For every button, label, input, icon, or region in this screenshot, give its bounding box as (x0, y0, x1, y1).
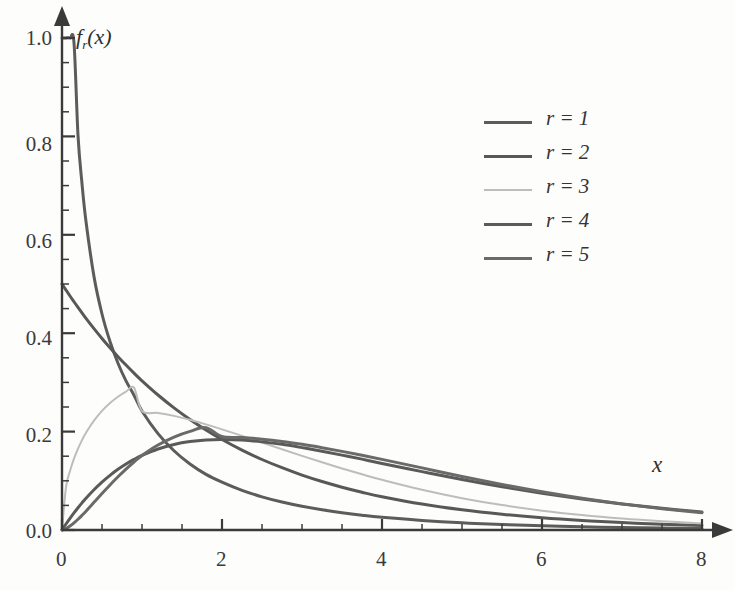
x-tick-label-0: 0 (56, 547, 67, 572)
y-tick-label-0: 0.0 (4, 519, 52, 544)
curve-r5 (62, 427, 702, 530)
legend-swatch-r1 (484, 121, 532, 124)
legend-label-r4: r = 4 (546, 208, 589, 233)
y-tick-label-4: 0.8 (4, 132, 52, 157)
legend-item-r4[interactable]: r = 4 (484, 208, 674, 242)
x-tick-label-3: 6 (536, 547, 547, 572)
x-tick-label-1: 2 (216, 547, 227, 572)
legend-item-r3[interactable]: r = 3 (484, 174, 674, 208)
legend-item-r5[interactable]: r = 5 (484, 242, 674, 276)
legend-label-r1: r = 1 (546, 106, 589, 131)
legend-item-r1[interactable]: r = 1 (484, 106, 674, 140)
y-axis-title: fr(x) (76, 24, 112, 53)
chi-square-pdf-figure: 0.0 0.2 0.4 0.6 0.8 1.0 0 2 4 6 8 fr(x) … (0, 0, 735, 591)
plot-canvas (0, 0, 735, 591)
x-tick-label-4: 8 (696, 547, 707, 572)
x-tick-label-2: 4 (376, 547, 387, 572)
legend-swatch-r2 (484, 155, 532, 158)
legend: r = 1 r = 2 r = 3 r = 4 r = 5 (484, 106, 674, 276)
y-tick-label-5: 1.0 (4, 26, 52, 51)
y-tick-label-2: 0.4 (4, 326, 52, 351)
y-axis-title-tail: (x) (87, 24, 111, 49)
curve-r2 (62, 284, 702, 525)
y-tick-label-3: 0.6 (4, 229, 52, 254)
legend-swatch-r3 (484, 189, 532, 191)
legend-item-r2[interactable]: r = 2 (484, 140, 674, 174)
legend-label-r2: r = 2 (546, 140, 589, 165)
legend-swatch-r4 (484, 223, 532, 226)
legend-swatch-r5 (484, 257, 532, 260)
legend-label-r3: r = 3 (546, 174, 589, 199)
x-axis-title: x (652, 452, 662, 478)
legend-label-r5: r = 5 (546, 242, 589, 267)
y-tick-label-1: 0.2 (4, 423, 52, 448)
